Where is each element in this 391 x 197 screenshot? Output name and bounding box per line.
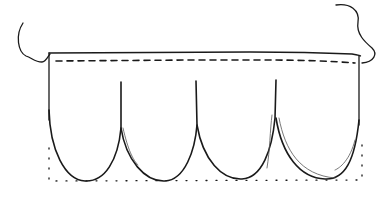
scallop-1 xyxy=(49,82,121,181)
pattern-outline xyxy=(49,145,362,181)
top-edge xyxy=(49,52,361,56)
sketch-drawing xyxy=(0,0,391,197)
left-tail-curl xyxy=(18,23,50,62)
scallop-3 xyxy=(197,80,276,179)
sketch-stroke xyxy=(279,118,335,178)
valance-sketch xyxy=(0,0,391,197)
scallop-4 xyxy=(276,118,359,179)
seam-line xyxy=(56,60,355,63)
scallop-2 xyxy=(121,81,197,181)
